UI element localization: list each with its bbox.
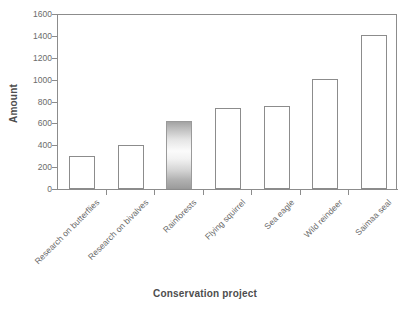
bar [166, 121, 192, 189]
x-tick-label: Flying squirrel [204, 198, 247, 241]
y-tick-mark [52, 167, 57, 168]
y-tick-mark [52, 145, 57, 146]
x-tick-mark [154, 190, 155, 195]
plot-frame [57, 14, 397, 189]
bar [118, 145, 144, 189]
y-tick-label: 1600 [18, 10, 52, 19]
y-tick-mark [52, 58, 57, 59]
x-tick-mark [106, 190, 107, 195]
bar [215, 108, 241, 189]
x-axis-tick-labels: Research on butterfliesResearch on bival… [0, 190, 410, 280]
y-tick-label: 1200 [18, 54, 52, 63]
y-tick-label: 1000 [18, 75, 52, 84]
x-tick-mark [203, 190, 204, 195]
y-tick-label: 1400 [18, 32, 52, 41]
x-tick-mark [300, 190, 301, 195]
y-axis-title-text: Amount [8, 84, 19, 123]
y-tick-mark [52, 14, 57, 15]
x-tick-label: Sea eagle [262, 198, 295, 231]
bar-chart: Amount 02004006008001000120014001600 Res… [0, 0, 410, 313]
y-axis-tick-labels: 02004006008001000120014001600 [18, 14, 52, 189]
bar [312, 79, 338, 189]
plot-area [58, 15, 396, 189]
x-tick-mark [251, 190, 252, 195]
x-tick-label: Saimaa seal [354, 198, 393, 237]
y-tick-label: 200 [18, 163, 52, 172]
bar [361, 35, 387, 189]
y-tick-label: 600 [18, 119, 52, 128]
x-axis-title: Conservation project [0, 288, 410, 299]
x-tick-mark [348, 190, 349, 195]
y-tick-mark [52, 189, 57, 190]
y-tick-mark [52, 36, 57, 37]
y-tick-label: 800 [18, 97, 52, 106]
x-tick-label: Rainforests [162, 198, 198, 234]
y-tick-mark [52, 123, 57, 124]
y-tick-label: 400 [18, 141, 52, 150]
bar [264, 106, 290, 189]
x-tick-label: Wild reindeer [303, 198, 344, 239]
y-tick-mark [52, 80, 57, 81]
y-tick-mark [52, 102, 57, 103]
bar [69, 156, 95, 189]
